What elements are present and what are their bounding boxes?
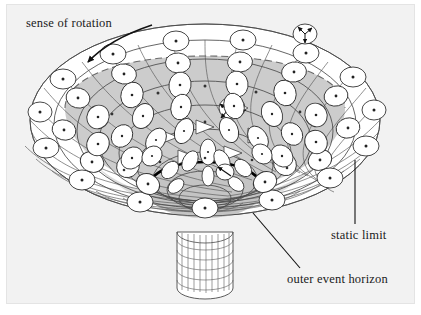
light-cone-with-arrow-horizon — [216, 164, 234, 180]
label-outer-event-horizon: outer event horizon — [287, 272, 388, 287]
light-cone-with-arrows-outer — [293, 24, 317, 44]
funnel-stem — [177, 232, 233, 299]
label-sense-of-rotation: sense of rotation — [26, 16, 112, 31]
figure-canvas: sense of rotation static limit outer eve… — [0, 0, 421, 315]
black-hole-embedding-diagram — [0, 0, 421, 315]
label-static-limit: static limit — [331, 228, 387, 243]
outer-event-horizon-leader — [253, 213, 300, 268]
